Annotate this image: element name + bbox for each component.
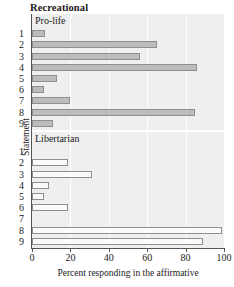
bar-row: [32, 213, 224, 224]
bar: [32, 227, 222, 234]
y-tick-label: 2: [0, 39, 24, 50]
y-tick-labels-prolife: 123456789: [0, 14, 28, 130]
bar-row: [32, 168, 224, 179]
x-axis-title: Percent responding in the affirmative: [32, 268, 224, 278]
y-tick-label: 9: [0, 236, 24, 247]
bar-row: [32, 236, 224, 247]
x-tick-label: 60: [142, 252, 152, 264]
chart-figure: Recreational Statement Percent respondin…: [0, 0, 234, 287]
x-tick-label: 80: [181, 252, 191, 264]
bar: [32, 30, 45, 37]
panel-prolife: Pro-life: [32, 14, 224, 130]
panel-label-libertarian: Libertarian: [35, 132, 79, 145]
y-tick-label: 6: [0, 202, 24, 213]
bar-row: [32, 146, 224, 157]
bar-row: [32, 157, 224, 168]
bar: [32, 86, 44, 93]
bar-row: [32, 95, 224, 106]
bar-row: [32, 39, 224, 50]
bar: [32, 204, 68, 211]
gridline: [224, 132, 225, 248]
bar-row: [32, 62, 224, 73]
bar-row: [32, 50, 224, 61]
bar: [32, 41, 157, 48]
bar: [32, 159, 68, 166]
bar: [32, 193, 44, 200]
bar: [32, 64, 197, 71]
bar: [32, 182, 49, 189]
y-tick-labels-libertarian: 123456789: [0, 132, 28, 248]
x-tick-label: 0: [30, 252, 35, 264]
bar-row: [32, 225, 224, 236]
bar-row: [32, 118, 224, 129]
x-tick-label: 20: [65, 252, 75, 264]
bar-row: [32, 191, 224, 202]
y-tick-label: 4: [0, 62, 24, 73]
bar-row: [32, 180, 224, 191]
y-tick-label: 1: [0, 28, 24, 39]
x-axis-line: [31, 248, 224, 249]
y-tick-label: 3: [0, 168, 24, 179]
panel-label-prolife: Pro-life: [35, 14, 66, 27]
x-tick-label: 40: [104, 252, 114, 264]
y-tick-label: 4: [0, 180, 24, 191]
gridline: [224, 14, 225, 130]
y-axis-line: [31, 14, 32, 248]
y-tick-label: 2: [0, 157, 24, 168]
bar-rows-libertarian: [32, 146, 224, 247]
chart-title: Recreational: [30, 2, 88, 14]
y-tick-label: 6: [0, 84, 24, 95]
bar-row: [32, 202, 224, 213]
bar-row: [32, 107, 224, 118]
bar-row: [32, 73, 224, 84]
x-tick-label: 100: [217, 252, 232, 264]
bar: [32, 53, 140, 60]
bar-rows-prolife: [32, 28, 224, 129]
y-tick-label: 9: [0, 118, 24, 129]
y-tick-label: 8: [0, 107, 24, 118]
bar: [32, 75, 57, 82]
bar: [32, 97, 70, 104]
y-tick-label: 5: [0, 191, 24, 202]
bar-row: [32, 28, 224, 39]
panel-libertarian: Libertarian: [32, 132, 224, 248]
bar: [32, 120, 53, 127]
y-tick-label: 3: [0, 50, 24, 61]
y-tick-label: 7: [0, 95, 24, 106]
y-tick-label: 5: [0, 73, 24, 84]
y-tick-label: 8: [0, 225, 24, 236]
bar: [32, 238, 203, 245]
bar: [32, 171, 92, 178]
y-tick-label: 7: [0, 213, 24, 224]
y-tick-label: 1: [0, 146, 24, 157]
bar: [32, 109, 195, 116]
bar-row: [32, 84, 224, 95]
